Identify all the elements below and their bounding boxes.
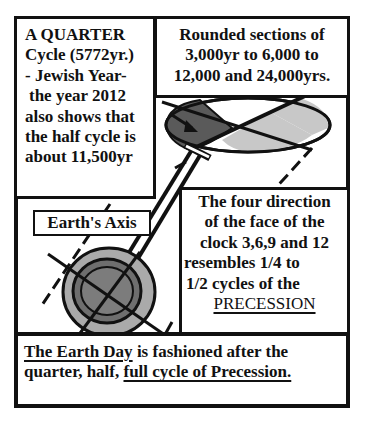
note-text: is fashioned after the: [133, 342, 289, 361]
note-line: A QUARTER: [25, 25, 149, 45]
note-line: The Earth Day is fashioned after the: [24, 342, 342, 362]
note-line: Rounded sections of: [159, 25, 345, 45]
full-cycle-underlined: full cycle of Precession.: [124, 362, 292, 381]
note-line: 12,000 and 24,000yrs.: [159, 66, 345, 86]
earth-day-underlined: The Earth Day: [24, 342, 133, 361]
note-line: The four direction: [184, 192, 345, 212]
note-line: of the face of the: [184, 212, 345, 232]
note-line: Cycle (5772yr.): [25, 45, 149, 65]
precession-emphasis: PRECESSION: [184, 294, 345, 314]
note-line: clock 3,6,9 and 12: [184, 233, 345, 253]
dashed-axis-right: [272, 148, 312, 192]
rounded-sections-note: Rounded sections of 3,000yr to 6,000 to …: [154, 16, 350, 98]
note-line: the year 2012: [25, 86, 149, 106]
quarter-cycle-note: A QUARTER Cycle (5772yr.) - Jewish Year-…: [14, 16, 156, 199]
note-line: - Jewish Year-: [25, 66, 149, 86]
note-line: about 11,500yr: [25, 147, 149, 167]
note-line: the half cycle is: [25, 127, 149, 147]
note-line: resembles 1/4 to: [184, 253, 345, 273]
earth-day-note: The Earth Day is fashioned after the qua…: [14, 332, 350, 408]
note-line: quarter, half, full cycle of Precession.: [24, 362, 342, 382]
note-text: quarter, half,: [24, 362, 124, 381]
note-line: also shows that: [25, 107, 149, 127]
clock-directions-note: The four direction of the face of the cl…: [179, 187, 350, 335]
note-line: 3,000yr to 6,000 to: [159, 45, 345, 65]
earth-globe: [48, 248, 172, 340]
precession-word: PRECESSION: [213, 294, 315, 313]
earth-axis-label: Earth's Axis: [33, 210, 151, 236]
note-line: 1/2 cycles of the: [184, 274, 345, 294]
